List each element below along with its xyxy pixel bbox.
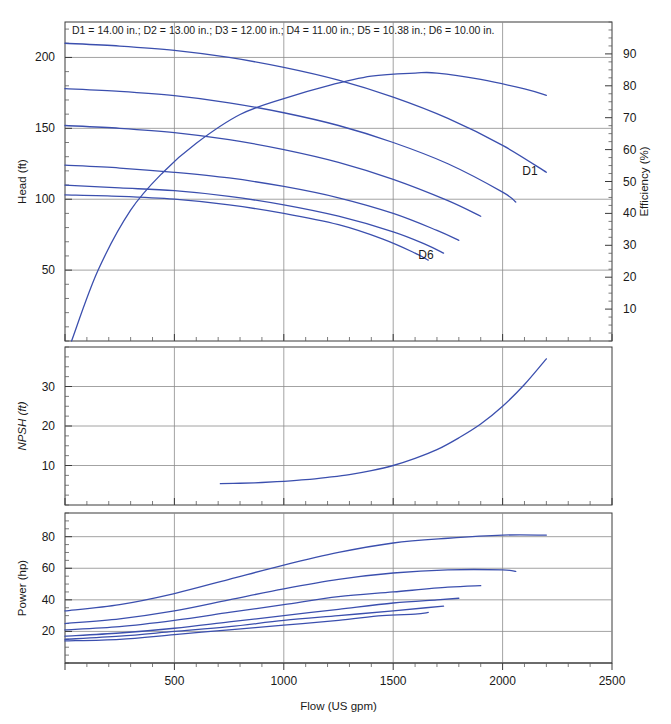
power-yticklabel-40: 40 — [42, 593, 56, 607]
power-curve-d3 — [65, 586, 481, 630]
eff-yticklabel-20: 20 — [623, 270, 637, 284]
eff-yticklabel-70: 70 — [623, 111, 637, 125]
pump-performance-figure: D1 = 14.00 in.; D2 = 13.00 in.; D3 = 12.… — [0, 0, 671, 724]
npsh-yticklabel-30: 30 — [42, 380, 56, 394]
curve-annotation-d1: D1 — [522, 164, 538, 178]
eff-yticklabel-30: 30 — [623, 238, 637, 252]
power-yticklabel-20: 20 — [42, 624, 56, 638]
eff-yticklabel-90: 90 — [623, 47, 637, 61]
head-yticklabel-100: 100 — [35, 192, 55, 206]
x-axis-ticklabel-2000: 2000 — [489, 674, 516, 688]
x-axis-ticklabel-1500: 1500 — [380, 674, 407, 688]
x-axis-title: Flow (US gpm) — [300, 700, 377, 712]
power-axis-title: Power (hp) — [16, 560, 28, 616]
curve-annotation-d6: D6 — [418, 248, 434, 262]
head-yticklabel-150: 150 — [35, 121, 55, 135]
npsh-axis-title: NPSH (ft) — [16, 401, 28, 450]
power-yticklabel-80: 80 — [42, 530, 56, 544]
head-curve-d5 — [65, 185, 444, 253]
x-axis-ticklabel-2500: 2500 — [599, 674, 626, 688]
head-axis-title: Head (ft) — [16, 159, 28, 204]
efficiency-axis-title: Efficiency (%) — [638, 146, 650, 216]
npsh-yticklabel-10: 10 — [42, 459, 56, 473]
npsh-curve — [220, 359, 546, 484]
head-panel-frame — [65, 22, 612, 341]
x-axis-ticklabel-500: 500 — [164, 674, 184, 688]
x-axis-ticklabel-1000: 1000 — [270, 674, 297, 688]
eff-yticklabel-10: 10 — [623, 302, 637, 316]
power-yticklabel-60: 60 — [42, 561, 56, 575]
head-curve-d1 — [65, 43, 546, 172]
npsh-yticklabel-20: 20 — [42, 419, 56, 433]
impeller-diameter-header: D1 = 14.00 in.; D2 = 13.00 in.; D3 = 12.… — [72, 24, 494, 36]
head-curve-d4 — [65, 165, 459, 240]
head-yticklabel-200: 200 — [35, 50, 55, 64]
power-curve-d5 — [65, 606, 444, 639]
eff-yticklabel-60: 60 — [623, 143, 637, 157]
eff-yticklabel-80: 80 — [623, 79, 637, 93]
eff-yticklabel-40: 40 — [623, 206, 637, 220]
head-curve-efficiency — [72, 72, 547, 341]
head-curve-d2 — [65, 89, 516, 202]
head-yticklabel-50: 50 — [42, 263, 56, 277]
performance-chart-svg: D1 = 14.00 in.; D2 = 13.00 in.; D3 = 12.… — [0, 0, 671, 724]
eff-yticklabel-50: 50 — [623, 175, 637, 189]
